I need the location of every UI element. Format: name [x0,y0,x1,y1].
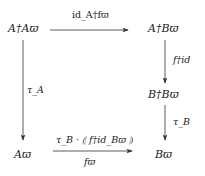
node-top-left: A†Aϖ [8,22,38,35]
label-top-arrow: id_A†fϖ [72,9,109,20]
label-bottom-below: fϖ [84,156,95,167]
node-top-right: A†Bϖ [148,22,179,35]
node-mid-right: B†Bϖ [148,88,179,101]
label-bottom-above: τ_B · ⦇ f†id_Bϖ ⦈ [56,134,133,146]
label-right-lower: τ_B [173,116,190,127]
label-right-upper: f†id [173,54,190,65]
label-left-arrow: τ_A [27,84,44,95]
node-bottom-left: Aϖ [14,148,31,161]
node-bottom-right: Bϖ [155,148,172,161]
